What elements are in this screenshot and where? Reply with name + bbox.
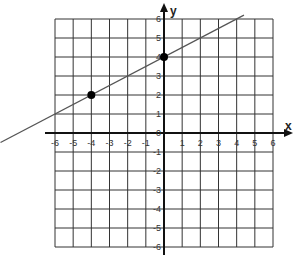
- y-tick-label: -4: [153, 204, 161, 214]
- y-tick-label: 6: [156, 14, 161, 24]
- y-tick-label: -1: [153, 147, 161, 157]
- x-axis-label: x: [285, 119, 292, 133]
- x-tick-label: 3: [216, 138, 221, 148]
- y-axis-arrow-icon: [160, 3, 168, 12]
- y-tick-label: -6: [153, 242, 161, 252]
- x-tick-label: 1: [180, 138, 185, 148]
- y-tick-label: -5: [153, 223, 161, 233]
- y-tick-label: 2: [156, 90, 161, 100]
- axes: [45, 3, 293, 255]
- y-axis-label: y: [170, 4, 177, 18]
- y-tick-label: 3: [156, 71, 161, 81]
- y-tick-label: -3: [153, 185, 161, 195]
- plotted-point: [87, 91, 95, 99]
- x-tick-label: -5: [69, 138, 77, 148]
- x-tick-label: 6: [270, 138, 275, 148]
- y-tick-label: 1: [156, 109, 161, 119]
- data-line: [1, 15, 244, 142]
- x-tick-label: 4: [234, 138, 239, 148]
- x-tick-label: 2: [198, 138, 203, 148]
- plotted-point: [160, 53, 168, 61]
- y-tick-label: -2: [153, 166, 161, 176]
- plotted-line: [1, 15, 244, 142]
- coordinate-plane: -6-5-4-3-2-11234566543210-1-2-3-4-5-6 x …: [0, 0, 300, 256]
- x-tick-label: -2: [124, 138, 132, 148]
- x-tick-label: 5: [252, 138, 257, 148]
- y-tick-label: 5: [156, 33, 161, 43]
- y-tick-label: 0: [156, 128, 161, 138]
- x-tick-label: -4: [87, 138, 95, 148]
- x-tick-label: -1: [142, 138, 150, 148]
- x-tick-label: -6: [51, 138, 59, 148]
- x-tick-label: -3: [105, 138, 113, 148]
